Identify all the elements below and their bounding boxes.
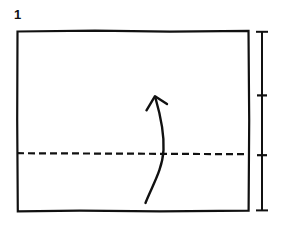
- valley-fold-crease-line: [17, 153, 249, 154]
- paper-outline: [17, 31, 249, 212]
- origami-diagram-figure: 1: [0, 0, 285, 228]
- diagram-canvas: [0, 0, 285, 228]
- fold-arrow-shaft: [146, 99, 164, 204]
